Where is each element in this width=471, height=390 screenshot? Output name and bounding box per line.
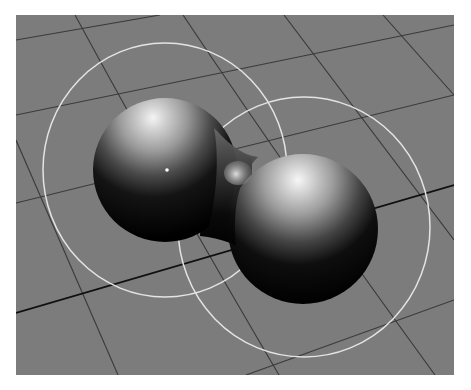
grid-line <box>16 25 454 115</box>
3d-viewport[interactable]: 3D viewport — two blended metaball spher… <box>16 15 454 375</box>
page: 3D viewport — two blended metaball spher… <box>0 0 471 390</box>
grid-line <box>16 15 160 40</box>
grid-line <box>246 300 454 375</box>
object-origin-dot-icon <box>165 168 169 172</box>
neck-highlight <box>224 161 252 185</box>
viewport-canvas[interactable] <box>16 15 454 375</box>
